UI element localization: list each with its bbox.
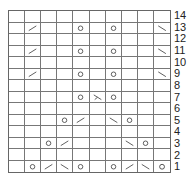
chart-cell <box>73 57 89 69</box>
chart-cell <box>154 57 170 69</box>
chart-cell <box>9 138 25 150</box>
chart-cell <box>57 138 73 150</box>
chart-cell <box>122 115 138 127</box>
chart-cell <box>154 161 170 173</box>
chart-cell <box>41 149 57 161</box>
chart-cell <box>73 149 89 161</box>
chart-cell <box>9 115 25 127</box>
chart-cell <box>41 23 57 35</box>
chart-cell <box>90 80 106 92</box>
chart-cell <box>138 92 154 104</box>
chart-cell <box>57 115 73 127</box>
chart-cell <box>90 69 106 81</box>
chart-cell <box>41 138 57 150</box>
chart-cell <box>57 126 73 138</box>
chart-cell <box>138 34 154 46</box>
chart-cell <box>154 69 170 81</box>
chart-cell <box>25 46 41 58</box>
chart-cell <box>25 80 41 92</box>
chart-cell <box>122 57 138 69</box>
chart-cell <box>41 80 57 92</box>
chart-cell <box>106 138 122 150</box>
chart-cell <box>122 11 138 23</box>
chart-cell <box>138 80 154 92</box>
chart-cell <box>57 149 73 161</box>
row-label: 3 <box>174 138 192 150</box>
chart-cell <box>57 92 73 104</box>
chart-cell <box>41 126 57 138</box>
chart-cell <box>154 126 170 138</box>
chart-cell <box>9 92 25 104</box>
chart-cell <box>25 161 41 173</box>
chart-cell <box>90 126 106 138</box>
chart-cell <box>73 103 89 115</box>
chart-cell <box>138 23 154 35</box>
chart-cell <box>57 23 73 35</box>
chart-cell <box>138 103 154 115</box>
chart-cell <box>9 23 25 35</box>
chart-cell <box>41 103 57 115</box>
chart-cell <box>73 34 89 46</box>
chart-cell <box>122 92 138 104</box>
chart-cell <box>106 23 122 35</box>
chart-cell <box>73 46 89 58</box>
chart-cell <box>90 149 106 161</box>
chart-cell <box>90 138 106 150</box>
chart-cell <box>57 34 73 46</box>
chart-cell <box>154 92 170 104</box>
chart-cell <box>73 23 89 35</box>
chart-cell <box>138 138 154 150</box>
chart-cell <box>138 11 154 23</box>
chart-cell <box>73 92 89 104</box>
chart-cell <box>154 103 170 115</box>
chart-cell <box>154 80 170 92</box>
chart-cell <box>106 103 122 115</box>
chart-cell <box>73 138 89 150</box>
chart-cell <box>9 80 25 92</box>
chart-cell <box>122 103 138 115</box>
chart-cell <box>138 149 154 161</box>
chart-cell <box>106 115 122 127</box>
chart-cell <box>122 69 138 81</box>
chart-cell <box>57 69 73 81</box>
chart-cell <box>9 34 25 46</box>
knitting-chart-grid <box>8 10 171 173</box>
chart-cell <box>138 161 154 173</box>
chart-cell <box>25 149 41 161</box>
chart-cell <box>138 115 154 127</box>
chart-cell <box>106 126 122 138</box>
chart-cell <box>90 46 106 58</box>
chart-cell <box>106 11 122 23</box>
chart-cell <box>106 80 122 92</box>
chart-cell <box>122 23 138 35</box>
chart-cell <box>106 46 122 58</box>
row-label: 14 <box>174 10 192 22</box>
chart-cell <box>73 115 89 127</box>
chart-cell <box>90 103 106 115</box>
chart-cell <box>90 115 106 127</box>
chart-cell <box>154 23 170 35</box>
chart-cell <box>138 126 154 138</box>
chart-cell <box>57 11 73 23</box>
chart-cell <box>9 11 25 23</box>
chart-cell <box>106 69 122 81</box>
row-number-labels: 1413121110987654321 <box>174 10 192 173</box>
chart-cell <box>122 161 138 173</box>
chart-cell <box>122 149 138 161</box>
chart-cell <box>57 161 73 173</box>
chart-cell <box>25 69 41 81</box>
chart-cell <box>106 92 122 104</box>
chart-cell <box>73 69 89 81</box>
chart-cell <box>41 92 57 104</box>
chart-cell <box>25 92 41 104</box>
chart-cell <box>25 126 41 138</box>
chart-cell <box>90 11 106 23</box>
chart-cell <box>122 46 138 58</box>
chart-cell <box>106 149 122 161</box>
chart-cell <box>122 80 138 92</box>
chart-cell <box>9 126 25 138</box>
row-label: 1 <box>174 161 192 173</box>
chart-cell <box>41 69 57 81</box>
chart-cell <box>154 115 170 127</box>
chart-cell <box>122 34 138 46</box>
